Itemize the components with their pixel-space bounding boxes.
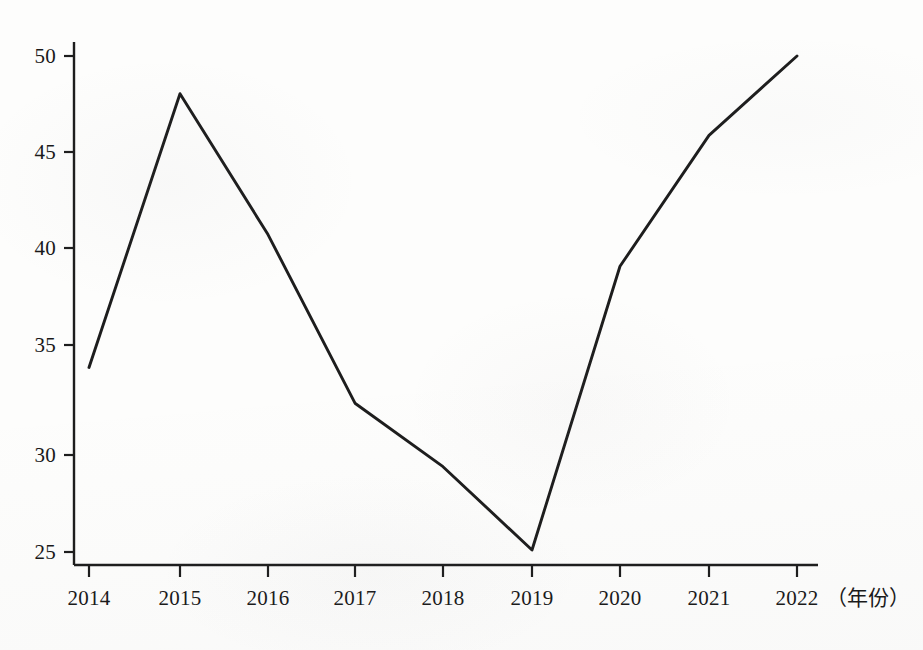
x-tick-label: 2021 [687, 588, 730, 609]
x-tick-label: 2014 [67, 588, 110, 609]
y-tick-label: 40 [34, 238, 56, 259]
x-tick-label: 2020 [598, 588, 641, 609]
y-tick-label: 35 [34, 335, 56, 356]
x-tick-label: 2017 [333, 588, 376, 609]
x-axis-ticks [89, 565, 797, 577]
y-axis-ticks [64, 56, 74, 552]
x-tick-label: 2022 [775, 588, 818, 609]
y-tick-label: 50 [34, 46, 56, 67]
x-tick-label: 2016 [246, 588, 289, 609]
chart-plot-area [0, 0, 923, 650]
data-series-line [89, 56, 797, 550]
y-tick-label: 25 [34, 542, 56, 563]
y-tick-label: 45 [34, 142, 56, 163]
line-chart-figure: 50 45 40 35 30 25 2014 2015 2016 2017 20… [0, 0, 923, 650]
y-tick-label: 30 [34, 445, 56, 466]
x-tick-label: 2018 [421, 588, 464, 609]
x-axis-title: （年份） [826, 588, 910, 609]
x-tick-label: 2015 [158, 588, 201, 609]
x-tick-label: 2019 [510, 588, 553, 609]
